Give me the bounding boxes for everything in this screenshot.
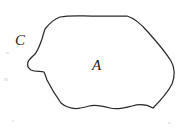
scan-speck	[6, 52, 9, 54]
curve-label-c: C	[15, 33, 25, 48]
region-label-a: A	[92, 58, 101, 73]
scan-speck	[168, 122, 171, 124]
scan-speck	[4, 78, 8, 81]
figure-container: C A	[0, 0, 188, 132]
scan-speck	[12, 120, 14, 122]
